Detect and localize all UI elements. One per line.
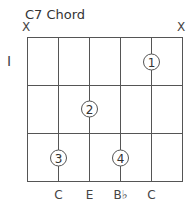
note-label-string-2: C — [54, 188, 62, 202]
note-label-string-4: B♭ — [114, 188, 128, 202]
finger-dot-2: 2 — [82, 101, 98, 117]
svg-text:4: 4 — [117, 152, 125, 166]
finger-dot-4: 4 — [113, 150, 129, 166]
note-label-string-3: E — [86, 188, 94, 202]
svg-text:1: 1 — [148, 56, 156, 70]
finger-dot-1: 1 — [144, 54, 160, 70]
svg-text:3: 3 — [55, 152, 63, 166]
svg-text:2: 2 — [86, 103, 94, 117]
finger-dot-3: 3 — [51, 150, 67, 166]
fretboard-grid: 1 2 3 4 — [0, 0, 196, 210]
note-label-string-5: C — [147, 188, 155, 202]
